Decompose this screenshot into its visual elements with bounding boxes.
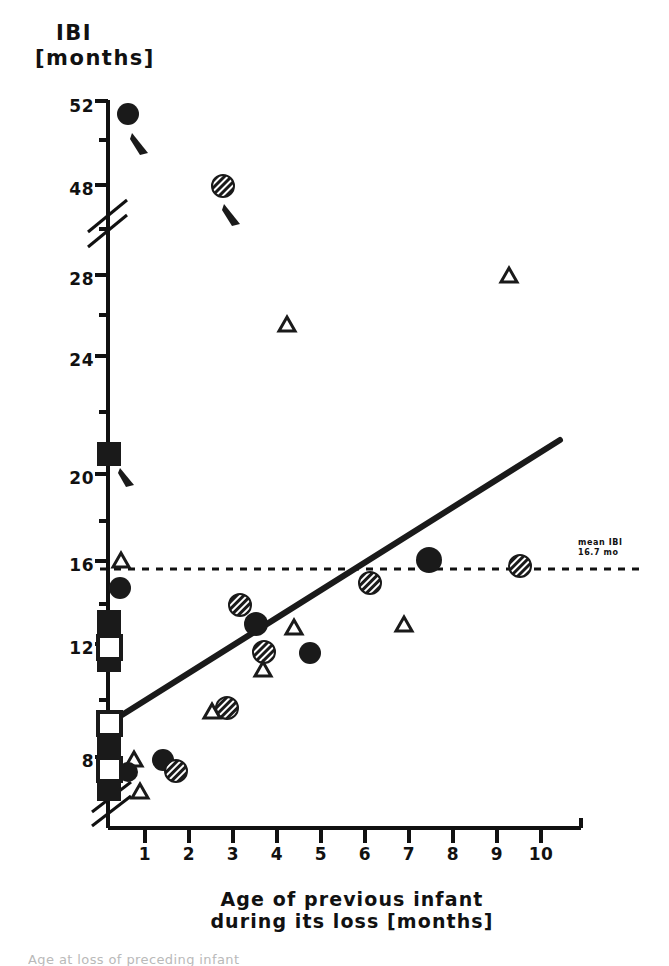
data-point [117,103,139,125]
data-point [255,662,271,676]
data-point [132,784,148,798]
regression-line [114,440,560,720]
data-point [416,547,442,573]
data-point [299,642,321,664]
data-point [212,175,234,197]
data-point [286,620,302,634]
arrow-icon [222,204,240,226]
data-point [98,636,121,659]
data-point [253,641,275,663]
data-point [279,317,295,331]
figure-caption-cutoff: Age at loss of preceding infant [28,952,458,966]
data-point [396,617,412,631]
data-point [359,572,381,594]
data-point [98,712,121,735]
data-point [126,752,142,766]
data-point [229,594,251,616]
data-point [509,555,531,577]
data-point [109,577,131,599]
series-open-triangle [113,268,517,798]
series-filled-circle [109,103,442,782]
mean-ibi-annotation: mean IBI 16.7 mo [578,538,623,558]
series-hatched-circle [165,175,531,782]
plot-canvas [0,0,669,966]
x-axis-title: Age of previous infant during its loss [… [92,888,612,933]
data-point [97,442,121,466]
data-point [113,553,129,567]
data-point [244,612,268,636]
data-point [165,760,187,782]
data-point [98,758,121,781]
arrow-icon [118,468,134,487]
arrow-icon [130,133,148,155]
axes [108,100,581,828]
x-axis-ticks [145,828,541,843]
data-point [501,268,517,282]
scatter-plot-figure: IBI [months] 52 48 28 24 20 16 12 8 1 2 … [0,0,669,966]
